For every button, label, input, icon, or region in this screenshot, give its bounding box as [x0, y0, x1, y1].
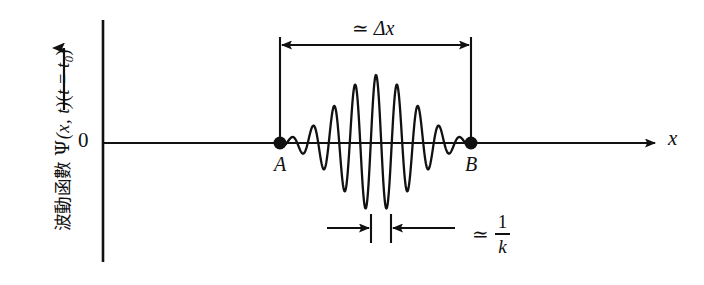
one-over-k-label: ≃ 1 k	[472, 212, 510, 256]
delta-x-approx-symbol: ≃	[352, 16, 369, 40]
one-over-k-numerator: 1	[495, 212, 511, 232]
wave-packet-figure: 波動函數 Ψ(x, t)(t = t0) 0 x A B ≃ Δx ≃ 1 k	[0, 0, 704, 285]
y-axis-caption-psi: Ψ	[52, 139, 73, 156]
point-b-dot	[465, 137, 478, 150]
fraction-bar	[495, 233, 511, 235]
point-a-dot	[274, 137, 287, 150]
figure-canvas	[0, 0, 704, 285]
y-axis-caption-cond-sub: 0	[62, 55, 76, 62]
y-axis-caption: 波動函數 Ψ(x, t)(t = t0)	[49, 15, 77, 265]
delta-x-text: Δx	[374, 17, 395, 39]
one-over-k-approx-symbol: ≃	[472, 224, 489, 244]
y-axis-caption-cond-var: t	[53, 89, 73, 95]
one-over-k-fraction: 1 k	[495, 212, 511, 256]
wave-packet-curve	[280, 75, 471, 208]
one-over-k-denominator: k	[495, 237, 509, 257]
point-b-label: B	[465, 154, 477, 174]
y-axis-caption-args: (x, t)	[53, 101, 73, 139]
point-a-label: A	[274, 154, 286, 174]
x-axis-label: x	[668, 128, 677, 149]
y-axis-caption-cond-eq: =	[53, 68, 73, 89]
delta-x-label: ≃ Δx	[352, 18, 394, 38]
y-axis-caption-cond-t: t	[53, 62, 73, 68]
origin-label: 0	[78, 130, 89, 151]
y-axis-caption-cond-open: (	[53, 95, 73, 102]
y-axis-caption-cjk: 波動函數	[53, 161, 73, 231]
y-axis-caption-cond-close: )	[53, 49, 73, 56]
